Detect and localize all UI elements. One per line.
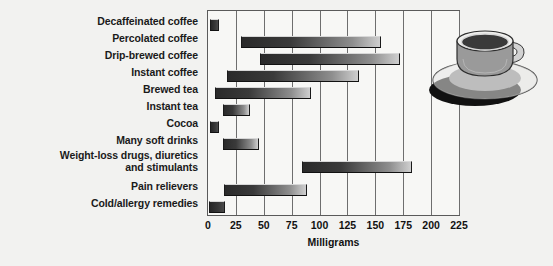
x-tick-200: 200	[422, 219, 440, 231]
category-label-column: Decaffeinated coffee Percolated coffee D…	[0, 0, 202, 266]
x-tick-100: 100	[311, 219, 329, 231]
gridline	[403, 11, 404, 215]
x-axis-title: Milligrams	[207, 236, 460, 248]
category-label-percolated-coffee: Percolated coffee	[112, 33, 198, 45]
x-tick-75: 75	[286, 219, 298, 231]
gridline	[459, 11, 460, 215]
x-tick-225: 225	[450, 219, 468, 231]
category-label-weight-loss-drugs: Weight-loss drugs, diuretics and stimula…	[60, 150, 198, 173]
bar-many-soft-drinks	[223, 138, 260, 150]
category-label-many-soft-drinks: Many soft drinks	[116, 135, 198, 147]
bar-drip-brewed-coffee	[260, 53, 399, 65]
bar-decaffeinated-coffee	[210, 19, 219, 31]
x-tick-25: 25	[230, 219, 242, 231]
bar-pain-relievers	[224, 184, 308, 196]
bar-percolated-coffee	[241, 36, 380, 48]
category-label-cocoa: Cocoa	[166, 118, 198, 130]
bar-cocoa	[210, 121, 219, 133]
gridline	[431, 11, 432, 215]
category-label-drip-brewed-coffee: Drip-brewed coffee	[105, 50, 198, 62]
x-tick-175: 175	[394, 219, 412, 231]
category-label-instant-coffee: Instant coffee	[131, 67, 198, 79]
bar-instant-tea	[223, 104, 251, 116]
plot-area	[207, 10, 460, 216]
bar-brewed-tea	[215, 87, 311, 99]
bar-instant-coffee	[227, 70, 359, 82]
category-label-decaffeinated-coffee: Decaffeinated coffee	[97, 16, 198, 28]
category-label-instant-tea: Instant tea	[147, 101, 198, 113]
x-tick-125: 125	[339, 219, 357, 231]
chart-root: Decaffeinated coffee Percolated coffee D…	[0, 0, 553, 266]
category-label-cold-allergy-remedies: Cold/allergy remedies	[91, 198, 198, 210]
bar-cold-allergy-remedies	[209, 201, 225, 213]
x-tick-50: 50	[258, 219, 270, 231]
category-label-brewed-tea: Brewed tea	[143, 84, 198, 96]
x-tick-150: 150	[367, 219, 385, 231]
bar-weight-loss-drugs-diuretics-and-stimulants	[302, 161, 412, 173]
category-label-pain-relievers: Pain relievers	[131, 181, 198, 193]
x-tick-0: 0	[205, 219, 211, 231]
